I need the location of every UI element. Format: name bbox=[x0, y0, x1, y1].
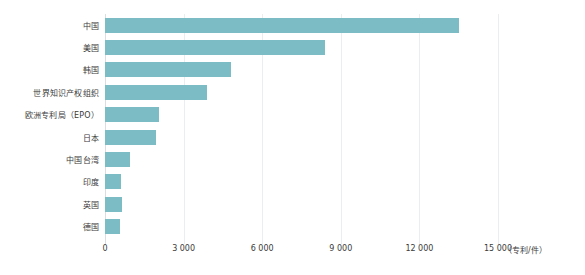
bar-row bbox=[105, 59, 498, 81]
bar bbox=[105, 152, 130, 167]
x-tick-label: 9 000 bbox=[329, 244, 352, 253]
gridline-15000 bbox=[498, 14, 499, 244]
category-label: 日本 bbox=[83, 126, 99, 148]
bar-rows bbox=[105, 14, 498, 238]
bar bbox=[105, 130, 156, 145]
bar-row bbox=[105, 193, 498, 215]
category-label: 中国台湾 bbox=[66, 148, 99, 170]
category-axis-labels: 中国美国韩国世界知识产权组织欧洲专利局（EPO）日本中国台湾印度英国德国 bbox=[0, 14, 99, 238]
category-label: 美国 bbox=[83, 36, 99, 58]
bar bbox=[105, 18, 459, 33]
category-label: 英国 bbox=[83, 193, 99, 215]
plot-area bbox=[105, 14, 498, 238]
bar bbox=[105, 107, 159, 122]
category-label: 世界知识产权组织 bbox=[33, 81, 99, 103]
category-label: 印度 bbox=[83, 171, 99, 193]
bar-row bbox=[105, 171, 498, 193]
category-label: 德国 bbox=[83, 216, 99, 238]
bar bbox=[105, 197, 122, 212]
category-label: 欧洲专利局（EPO） bbox=[25, 104, 99, 126]
bar-row bbox=[105, 216, 498, 238]
x-tick-label: 6 000 bbox=[251, 244, 274, 253]
bar-row bbox=[105, 126, 498, 148]
x-tick-label: 12 000 bbox=[405, 244, 433, 253]
bar bbox=[105, 40, 325, 55]
bar-row bbox=[105, 36, 498, 58]
bar-row bbox=[105, 104, 498, 126]
x-tick-label: 0 bbox=[102, 244, 107, 253]
bar-row bbox=[105, 14, 498, 36]
bar-row bbox=[105, 148, 498, 170]
bar-chart: 中国美国韩国世界知识产权组织欧洲专利局（EPO）日本中国台湾印度英国德国 （专利… bbox=[0, 0, 585, 275]
bar bbox=[105, 219, 120, 234]
bar-row bbox=[105, 81, 498, 103]
category-label: 韩国 bbox=[83, 59, 99, 81]
value-axis: （专利/件） 03 0006 0009 00012 00015 000 bbox=[105, 244, 498, 262]
bar bbox=[105, 85, 207, 100]
category-label: 中国 bbox=[83, 14, 99, 36]
bar bbox=[105, 62, 231, 77]
x-tick-label: 3 000 bbox=[172, 244, 195, 253]
bar bbox=[105, 174, 121, 189]
x-tick-label: 15 000 bbox=[484, 244, 512, 253]
